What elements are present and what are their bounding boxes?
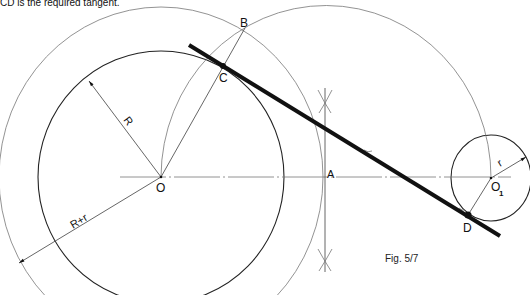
point-O1-dot [490,177,493,180]
label-O1-subscript: 1 [499,189,504,198]
label-A: A [327,168,335,180]
bisector-arc-mark-top [318,90,331,113]
bisector-arc-mark-top-2 [319,90,332,113]
label-R-plus-r: R+r [68,211,90,231]
dimension-R-plus-r-line [19,177,161,263]
bisector-arc-mark-bottom-2 [319,249,332,271]
point-O-dot [160,176,163,179]
line-OB [161,28,245,177]
tangent-construction-diagram: B C O A D O 1 R R+r r [0,0,530,295]
point-C-dot [220,63,226,69]
bisector-arc-mark-bottom [318,249,331,271]
construction-arc-centre-A [161,5,491,178]
label-D: D [463,221,472,235]
figure-label: Fig. 5/7 [385,253,418,264]
label-O: O [156,181,165,195]
label-B: B [240,16,248,30]
label-R: R [121,114,135,128]
line-O1-D [468,178,491,215]
point-D-dot [465,212,472,219]
outer-circle-R-plus-r [0,7,323,295]
dimension-R-line [89,81,161,177]
label-r: r [495,156,505,168]
tangent-line-CD [189,45,500,236]
label-C: C [219,71,228,85]
